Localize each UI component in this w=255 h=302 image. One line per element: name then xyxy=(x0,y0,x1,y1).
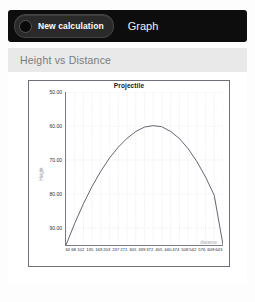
y-axis-tick-label: 80.00 xyxy=(29,191,62,197)
x-axis-tick-label: 102 xyxy=(77,248,84,252)
new-calculation-label: New calculation xyxy=(38,21,104,31)
y-axis-tick-label: 90.00 xyxy=(29,225,62,231)
y-axis-title: Height xyxy=(39,167,44,180)
page-title: Height vs Distance xyxy=(20,54,111,66)
chart-title: Projectile xyxy=(29,82,229,89)
chart-series-line xyxy=(66,92,223,245)
tab-graph[interactable]: Graph xyxy=(128,20,159,32)
x-axis-tick-label: 474 xyxy=(172,248,179,252)
y-axis-tick-label: 70.00 xyxy=(29,157,62,163)
chart-container: Projectile Height distance 50.0060.0070.… xyxy=(28,80,230,267)
x-axis-tick-label: 271 xyxy=(121,248,128,252)
x-axis-tick-label: 643 xyxy=(215,248,222,252)
y-axis-tick-label: 60.00 xyxy=(29,123,62,129)
plot-area xyxy=(65,92,223,246)
x-axis-tick-label: 68 xyxy=(71,248,76,252)
x-axis-tick-label: 508 xyxy=(181,248,188,252)
subheader-bar: Height vs Distance xyxy=(8,48,247,73)
x-axis-tick-label: 609 xyxy=(207,248,214,252)
x-axis-tick-label: 440 xyxy=(164,248,171,252)
x-axis-tick-label: 135 xyxy=(86,248,93,252)
app-window: New calculation Graph Height vs Distance… xyxy=(0,0,255,302)
x-axis-ticks: 3468102135169203237271305339372405440474… xyxy=(65,248,223,258)
x-axis-tick-label: 405 xyxy=(155,248,162,252)
radio-dot-icon xyxy=(19,20,32,33)
content-area: Projectile Height distance 50.0060.0070.… xyxy=(8,72,247,284)
x-axis-tick-label: 305 xyxy=(129,248,136,252)
x-axis-tick-label: 237 xyxy=(112,248,119,252)
y-axis-tick-label: 50.00 xyxy=(29,89,62,95)
x-axis-tick-label: 169 xyxy=(95,248,102,252)
x-axis-tick-label: 34 xyxy=(65,248,70,252)
x-axis-tick-label: 203 xyxy=(103,248,110,252)
x-axis-tick-label: 576 xyxy=(198,248,205,252)
plot-inner xyxy=(66,92,223,245)
x-axis-tick-label: 372 xyxy=(146,248,153,252)
x-axis-tick-label: 339 xyxy=(138,248,145,252)
x-axis-tick-label: 542 xyxy=(190,248,197,252)
top-toolbar: New calculation Graph xyxy=(8,10,247,42)
new-calculation-button[interactable]: New calculation xyxy=(14,14,114,38)
